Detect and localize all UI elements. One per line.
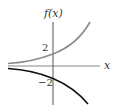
function-graph: f(x) x 2 −2 [0,0,114,108]
y-axis-label: f(x) [43,7,63,20]
upper-curve [8,22,90,64]
tick-label-neg-2: −2 [38,77,53,88]
tick-label-2: 2 [42,42,48,53]
x-axis-label: x [104,59,111,72]
